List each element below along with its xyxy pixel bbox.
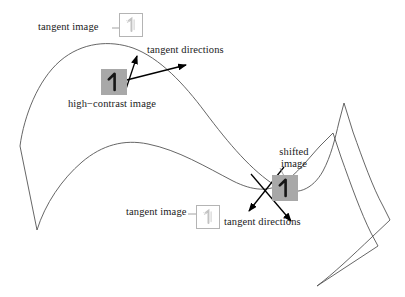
digit-one-faint-glyph-bottom bbox=[197, 206, 219, 228]
label-tangent-image-bottom: tangent image bbox=[126, 206, 187, 218]
outer-manifold-curve bbox=[20, 44, 390, 286]
label-shifted-image-line1: shifted bbox=[271, 146, 317, 158]
outer-manifold-left-vertex bbox=[20, 146, 37, 230]
label-tangent-image-top: tangent image bbox=[38, 21, 99, 33]
tangent-image-patch-top bbox=[119, 13, 143, 37]
label-shifted-image-line2: image bbox=[271, 158, 317, 170]
label-tangent-directions-top: tangent directions bbox=[147, 44, 224, 56]
manifold-tangent-diagram: tangent image tangent directions high−co… bbox=[0, 0, 405, 297]
digit-one-dark-glyph-shifted bbox=[272, 175, 298, 201]
tangent-image-patch-bottom bbox=[196, 205, 220, 229]
digit-one-dark-glyph-high-contrast bbox=[101, 69, 127, 95]
high-contrast-image-patch bbox=[101, 69, 127, 95]
digit-one-faint-glyph-top bbox=[120, 14, 142, 36]
inner-manifold-curve bbox=[37, 133, 378, 246]
label-shifted-image: shifted image bbox=[271, 146, 317, 170]
inner-manifold-tail bbox=[317, 246, 378, 286]
label-high-contrast-image: high−contrast image bbox=[68, 98, 156, 110]
label-tangent-directions-bottom: tangent directions bbox=[224, 216, 301, 228]
tangent-arrow-top-up bbox=[126, 56, 137, 89]
shifted-image-patch bbox=[272, 175, 298, 201]
